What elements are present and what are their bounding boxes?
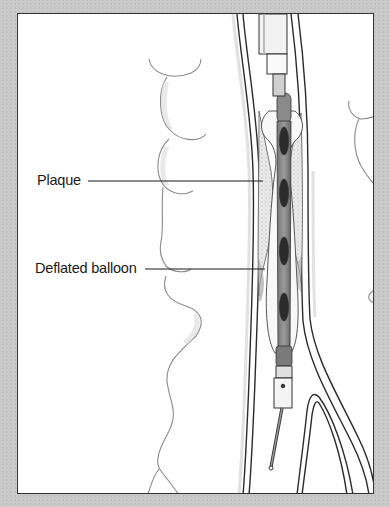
illustration-frame: Plaque Deflated balloon [17, 13, 374, 494]
deflated-balloon-label: Deflated balloon [35, 261, 137, 276]
leader-lines [88, 181, 265, 269]
catheter-shaft [259, 14, 287, 96]
catheter-tip [274, 366, 292, 408]
guidewire [269, 408, 282, 470]
tissue-lobes-right [349, 101, 374, 303]
artery-walls [237, 14, 374, 494]
deflated-balloon [276, 93, 292, 366]
angioplasty-illustration [18, 14, 374, 494]
plaque-label: Plaque [37, 173, 81, 188]
tissue-lobes-left [147, 59, 206, 494]
tissue-shadow-left [160, 81, 200, 345]
